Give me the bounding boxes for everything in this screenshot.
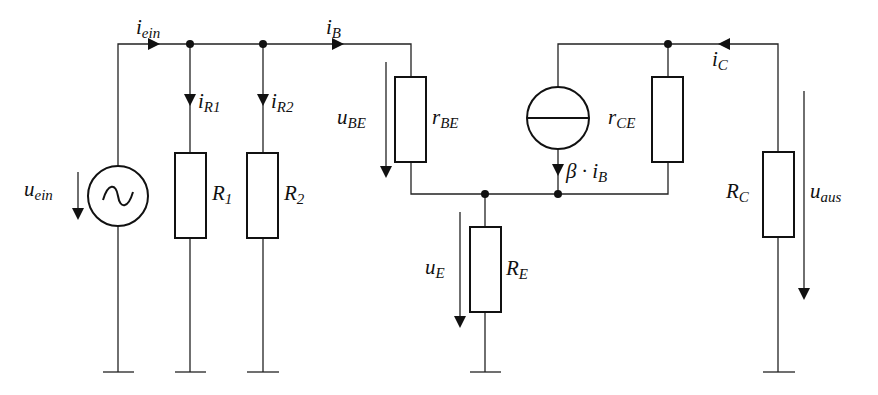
label-rbe: rBE <box>432 105 459 131</box>
labels: iein iR1 iR2 iB iC β · iB uein uBE uE ua… <box>24 15 842 282</box>
label-u-ein: uein <box>24 177 53 203</box>
label-i-r1: iR1 <box>198 89 221 115</box>
arrow-u-be-icon <box>380 62 392 178</box>
label-i-b: iB <box>326 15 341 41</box>
label-rce: rCE <box>608 105 635 131</box>
resistor-r1 <box>175 153 206 238</box>
arrow-u-e-icon <box>454 212 466 328</box>
ac-voltage-source-icon <box>88 166 148 226</box>
current-source-icon <box>527 87 589 149</box>
circuit-diagram: iein iR1 iR2 iB iC β · iB uein uBE uE ua… <box>0 0 878 395</box>
label-r1: R1 <box>211 181 232 207</box>
arrow-beta-ib-icon <box>552 164 564 176</box>
label-i-c: iC <box>712 47 729 73</box>
arrow-i-r2-icon <box>257 94 269 106</box>
label-u-be: uBE <box>337 105 366 131</box>
label-beta-ib: β · iB <box>565 159 607 185</box>
label-rc: RC <box>725 179 750 205</box>
resistor-r2 <box>247 153 278 238</box>
arrow-i-c-icon <box>718 38 730 50</box>
resistor-re <box>470 227 501 312</box>
arrow-i-r1-icon <box>184 94 196 106</box>
label-i-r2: iR2 <box>271 89 294 115</box>
label-u-aus: uaus <box>810 179 842 205</box>
label-u-e: uE <box>425 255 445 281</box>
resistor-rbe <box>395 77 426 162</box>
resistor-rc <box>763 152 794 237</box>
label-re: RE <box>505 256 528 282</box>
resistor-rce <box>652 77 683 162</box>
arrow-u-aus-icon <box>798 91 810 300</box>
arrow-u-ein-icon <box>72 172 84 220</box>
label-r2: R2 <box>283 181 305 207</box>
label-i-ein: iein <box>136 15 160 41</box>
